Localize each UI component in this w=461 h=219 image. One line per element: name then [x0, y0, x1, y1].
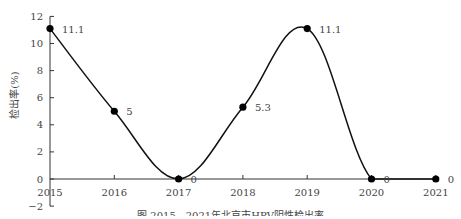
- data-point: [239, 104, 246, 111]
- data-label: 0: [384, 174, 390, 185]
- data-point: [175, 175, 182, 182]
- data-label: 11.1: [319, 24, 341, 35]
- data-label: 0: [448, 174, 454, 185]
- y-tick-label: 6: [37, 92, 43, 103]
- data-label: 5.3: [255, 102, 271, 113]
- series-line: [50, 27, 436, 179]
- data-label: 5: [126, 106, 132, 117]
- data-point: [368, 175, 375, 182]
- y-axis-label: 检出率(%): [8, 71, 20, 118]
- y-tick-label: 2: [37, 146, 43, 157]
- data-point: [111, 108, 118, 115]
- data-label: 0: [191, 174, 197, 185]
- y-axis: −2024681012: [28, 11, 54, 212]
- y-tick-label: 0: [37, 174, 43, 185]
- x-tick-label: 2021: [423, 187, 448, 198]
- data-point: [432, 175, 439, 182]
- y-tick-label: 10: [30, 38, 43, 49]
- y-tick-label: 4: [37, 119, 43, 130]
- x-tick-label: 2015: [37, 187, 62, 198]
- data-points: [46, 25, 439, 183]
- x-tick-label: 2016: [102, 187, 127, 198]
- x-tick-label: 2019: [294, 187, 319, 198]
- y-tick-label: 8: [37, 65, 43, 76]
- x-tick-label: 2017: [166, 187, 191, 198]
- x-tick-label: 2018: [230, 187, 255, 198]
- data-label: 11.1: [62, 24, 84, 35]
- x-tick-label: 2020: [359, 187, 384, 198]
- line-chart: −2024681012 2015201620172018201920202021…: [0, 0, 461, 219]
- data-labels: 11.1505.311.100: [62, 24, 454, 185]
- data-point: [46, 25, 53, 32]
- y-tick-label: 12: [30, 11, 43, 22]
- data-point: [304, 25, 311, 32]
